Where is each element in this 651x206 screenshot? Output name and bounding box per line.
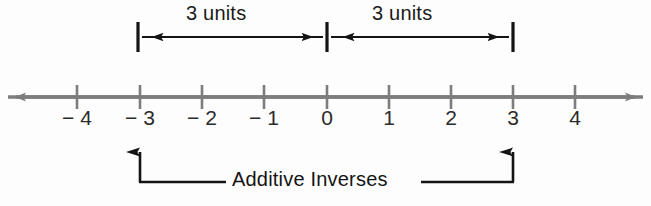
measurement-label-left: 3 units [186,2,246,25]
tick-label-3: 3 [486,106,540,130]
measurement-bracket-left [138,22,323,52]
tick-label-4: 4 [548,106,602,130]
callout-label: Additive Inverses [232,168,388,191]
number-line-figure: 3 units 3 units − 4 − 3 − 2 − 1 0 1 2 3 … [0,0,651,206]
tick-label-0: 0 [300,106,354,130]
tick-label--3: − 3 [113,106,167,130]
tick-label--1: − 1 [237,106,291,130]
measurement-bracket-right [331,22,513,52]
tick-label--4: − 4 [50,106,104,130]
tick-label-2: 2 [424,106,478,130]
tick-label-1: 1 [362,106,416,130]
tick-label--2: − 2 [175,106,229,130]
measurement-label-right: 3 units [372,2,432,25]
